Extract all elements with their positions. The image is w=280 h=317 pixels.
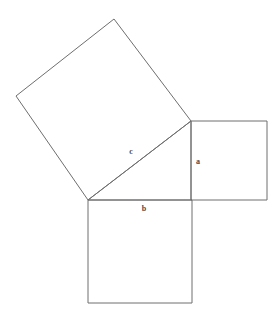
diagram-canvas: a b c: [0, 0, 280, 317]
pythagorean-theorem-figure: a b c: [0, 0, 280, 317]
label-a: a: [196, 157, 200, 166]
label-c: c: [129, 147, 133, 156]
figure-background: [0, 0, 280, 317]
label-b: b: [142, 204, 147, 213]
